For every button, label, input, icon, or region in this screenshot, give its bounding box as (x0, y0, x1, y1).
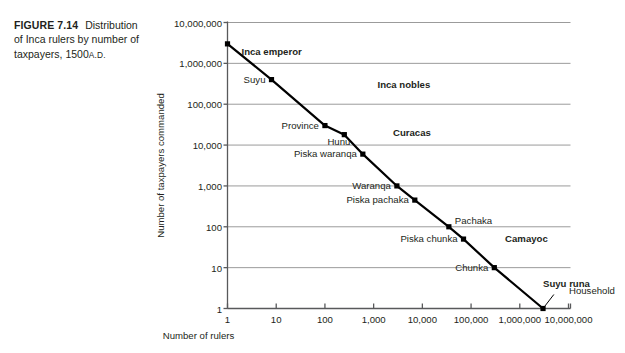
y-axis-tick-label-text: 100 (206, 221, 222, 232)
x-axis-tick-label: 100,000 (454, 314, 489, 325)
y-axis-tick-label-text: 10,000 (193, 140, 222, 151)
point-label: Inca emperor (242, 47, 302, 57)
data-point-marker (492, 265, 497, 270)
data-point-marker (394, 183, 399, 188)
x-axis-tick-label: 10,000 (408, 314, 437, 325)
data-point-marker (446, 224, 451, 229)
data-point-marker (225, 41, 230, 46)
point-label: Pachaka (455, 216, 492, 226)
x-axis-tick-label: 10,000,000 (544, 314, 592, 325)
y-axis-tick-label-text: 1 (217, 303, 222, 314)
group-label: Suyu runa (543, 279, 590, 289)
x-axis-tick-label: 100 (317, 314, 333, 325)
point-label: Hunu (327, 137, 350, 147)
point-label: Piska chunka (400, 234, 457, 244)
y-axis-tick-label-text: 1,000 (198, 180, 222, 191)
y-axis-tick-label-text: 100,000 (187, 99, 222, 110)
x-axis-tick-label: 10 (271, 314, 282, 325)
point-label: Suyu (244, 75, 266, 85)
y-axis-tick-label-text: 10,000,000 (174, 17, 222, 28)
group-label: Camayoc (505, 234, 548, 244)
point-label: Piska waranqa (294, 149, 357, 159)
point-label: Waranqa (352, 181, 391, 191)
x-axis-tick-label: 1 (225, 314, 230, 325)
chart-container: 10,000,0001,000,000100,00010,0001,000100… (0, 0, 625, 353)
y-axis-title: Number of taxpayers commanded (155, 93, 166, 238)
group-label: Inca nobles (378, 80, 431, 90)
point-label: Piska pachaka (346, 195, 408, 205)
data-point-marker (461, 236, 466, 241)
annotation-leader-line (543, 295, 554, 309)
point-label: Province (282, 121, 319, 131)
data-point-marker (360, 152, 365, 157)
x-axis-tick-label: 1,000 (362, 314, 386, 325)
y-axis-tick-label-text: 1,000,000 (179, 58, 222, 69)
x-axis-title-text: Number of rulers (163, 330, 234, 341)
x-axis-tick-label: 1,000,000 (498, 314, 541, 325)
chart-plot-svg (0, 0, 625, 353)
group-label: Curacas (393, 128, 431, 138)
data-point-marker (269, 77, 274, 82)
data-point-marker (322, 123, 327, 128)
x-axis-title: Number of rulers (0, 330, 625, 341)
data-point-marker (412, 197, 417, 202)
point-label: Chunka (455, 263, 488, 273)
y-axis-tick-label-text: 10 (211, 262, 222, 273)
